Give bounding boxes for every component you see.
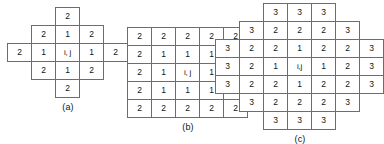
mask-cell: 1	[151, 45, 176, 64]
mask-row: 333	[216, 3, 384, 22]
mask-cell: 2	[287, 93, 312, 112]
mask-cell: 2	[151, 27, 176, 46]
mask-cell: 1	[151, 63, 176, 82]
mask-cell: 3	[239, 93, 264, 112]
mask-cell: 3	[215, 39, 240, 58]
diamond-mask-caption: (a)	[62, 102, 74, 112]
mask-cell: 2	[7, 43, 32, 62]
mask-row: 333	[216, 111, 384, 130]
mask-row: 321i,j123	[216, 57, 384, 76]
mask-cell: 2	[263, 21, 288, 40]
mask-cell: 2	[31, 25, 56, 44]
mask-cell: 2	[175, 27, 200, 46]
mask-cell: 2	[335, 39, 360, 58]
octagon-mask-caption: (c)	[294, 134, 305, 144]
mask-cell: 3	[263, 3, 288, 22]
mask-cell: 2	[311, 39, 336, 58]
mask-cell: 3	[263, 111, 288, 130]
mask-cell: 2	[311, 75, 336, 94]
mask-cell: 1	[55, 61, 80, 80]
mask-cell: 1	[175, 45, 200, 64]
mask-row: 2	[8, 79, 128, 98]
mask-cell: 2	[287, 21, 312, 40]
mask-cell: 3	[359, 75, 384, 94]
mask-cell: 1	[311, 57, 336, 76]
mask-cell: 2	[127, 99, 152, 118]
mask-cell: 2	[335, 75, 360, 94]
mask-cell: 3	[311, 111, 336, 130]
mask-cell: 3	[359, 39, 384, 58]
diamond-mask: 221221i, j122122(a)	[8, 8, 128, 112]
mask-cell: 3	[239, 21, 264, 40]
mask-cell: 2	[55, 79, 80, 98]
mask-cell: 2	[239, 39, 264, 58]
mask-cell: 2	[31, 61, 56, 80]
mask-row: 212	[8, 61, 128, 80]
mask-row: 32223	[216, 93, 384, 112]
mask-cell: 2	[311, 21, 336, 40]
octagon-mask: 333322233221223321i,j123322122332223333(…	[216, 4, 384, 144]
mask-cell-center: i, j	[175, 63, 200, 82]
mask-cell: 2	[103, 43, 128, 62]
mask-cell: 3	[359, 57, 384, 76]
mask-cell: 2	[127, 81, 152, 100]
mask-cell: 3	[287, 111, 312, 130]
mask-cell: 2	[79, 25, 104, 44]
mask-cell: 2	[263, 93, 288, 112]
mask-row: 21i, j12	[8, 43, 128, 62]
mask-cell: 1	[55, 25, 80, 44]
mask-cell: 3	[335, 21, 360, 40]
mask-cell-center: i,j	[287, 57, 312, 76]
mask-cell: 1	[287, 75, 312, 94]
mask-cell: 2	[151, 99, 176, 118]
mask-cell: 1	[151, 81, 176, 100]
mask-cell: 2	[79, 61, 104, 80]
mask-cell: 2	[239, 57, 264, 76]
mask-cell: 2	[263, 39, 288, 58]
mask-cell: 3	[215, 75, 240, 94]
mask-row: 32223	[216, 21, 384, 40]
mask-cell: 1	[287, 39, 312, 58]
octagon-mask-grid: 333322233221223321i,j123322122332223333	[216, 4, 384, 130]
mask-row: 212	[8, 25, 128, 44]
mask-cell: 3	[215, 57, 240, 76]
mask-cell: 2	[127, 45, 152, 64]
mask-cell: 2	[263, 75, 288, 94]
mask-cell-center: i, j	[55, 43, 80, 62]
mask-cell: 2	[127, 63, 152, 82]
mask-cell: 2	[175, 99, 200, 118]
diamond-mask-grid: 221221i, j122122	[8, 8, 128, 98]
mask-row: 2	[8, 7, 128, 26]
mask-cell: 2	[239, 75, 264, 94]
mask-cell: 3	[335, 93, 360, 112]
mask-cell: 3	[311, 3, 336, 22]
mask-cell: 2	[335, 57, 360, 76]
mask-cell: 3	[287, 3, 312, 22]
square-mask-caption: (b)	[182, 122, 194, 132]
mask-row: 3221223	[216, 39, 384, 58]
mask-cell: 2	[55, 7, 80, 26]
mask-cell: 1	[31, 43, 56, 62]
mask-cell: 1	[263, 57, 288, 76]
mask-cell: 1	[175, 81, 200, 100]
mask-row: 3221223	[216, 75, 384, 94]
mask-cell: 2	[311, 93, 336, 112]
mask-cell: 1	[79, 43, 104, 62]
mask-cell: 2	[127, 27, 152, 46]
